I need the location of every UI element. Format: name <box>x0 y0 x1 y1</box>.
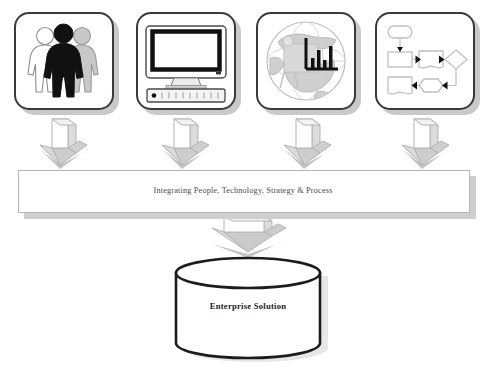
down-block-arrow-process <box>402 119 449 169</box>
enterprise-solution-label: Enterprise Solution <box>173 256 323 356</box>
integration-banner[interactable]: Integrating People, Technology, Strategy… <box>18 170 470 213</box>
banner-label: Integrating People, Technology, Strategy… <box>18 170 468 211</box>
down-block-arrow-people <box>40 119 87 169</box>
down-block-arrow-banner-to-result <box>212 216 286 258</box>
down-block-arrow-technology <box>162 119 209 169</box>
down-block-arrow-strategy <box>284 119 331 169</box>
enterprise-solution-cylinder[interactable]: Enterprise Solution <box>173 256 331 362</box>
